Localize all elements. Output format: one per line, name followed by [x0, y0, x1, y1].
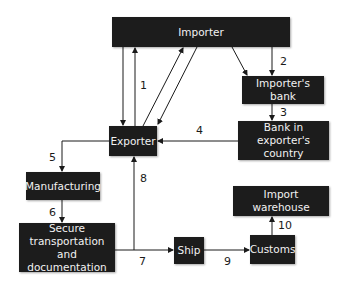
step-label-4: 4	[196, 125, 203, 137]
step-label-1: 1	[140, 80, 147, 92]
node-secure-transportation: Secure transportation and documentation	[19, 223, 115, 272]
node-importer: Importer	[112, 17, 290, 47]
node-secure-transportation-label: Secure transportation and documentation	[21, 222, 113, 274]
node-import-warehouse-label: Import warehouse	[235, 188, 327, 214]
step-label-5: 5	[49, 152, 56, 164]
node-manufacturing: Manufacturing	[26, 172, 100, 200]
node-ship-label: Ship	[178, 244, 201, 257]
node-importers-bank: Importer's bank	[242, 76, 324, 104]
node-import-warehouse: Import warehouse	[233, 186, 329, 216]
node-ship: Ship	[174, 237, 204, 264]
step-label-3: 3	[280, 107, 287, 119]
step-label-2: 2	[280, 56, 287, 68]
node-manufacturing-label: Manufacturing	[25, 180, 101, 193]
node-customs: Customs	[250, 235, 295, 264]
step-label-6: 6	[49, 207, 56, 219]
node-exporter: Exporter	[109, 126, 157, 156]
node-exporter-label: Exporter	[110, 135, 155, 148]
step-label-7: 7	[139, 256, 146, 268]
node-importer-label: Importer	[178, 26, 224, 39]
step-label-9: 9	[224, 256, 231, 268]
node-bank-exporter-country-label: Bank in exporter's country	[240, 121, 327, 160]
node-customs-label: Customs	[250, 243, 296, 256]
node-bank-exporter-country: Bank in exporter's country	[238, 121, 329, 160]
step-label-8: 8	[140, 173, 147, 185]
node-importers-bank-label: Importer's bank	[244, 77, 322, 103]
step-label-10: 10	[278, 220, 292, 232]
